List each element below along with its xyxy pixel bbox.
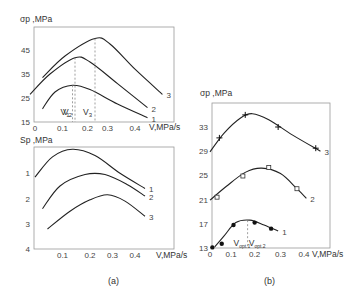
y-tick-label: 3 bbox=[26, 220, 31, 229]
series-label-1: 1 bbox=[282, 228, 287, 237]
annotation-label: V2 bbox=[63, 107, 73, 118]
x-tick-label: 0.2 bbox=[84, 251, 96, 260]
x-tick-label: 0.3 bbox=[107, 251, 119, 260]
data-point-marker bbox=[269, 226, 273, 230]
data-point-marker bbox=[242, 112, 248, 118]
data-point-marker bbox=[220, 242, 224, 246]
series-line-2 bbox=[210, 168, 306, 200]
y-tick-label: 45 bbox=[21, 46, 30, 55]
y-axis-label: σp ,MPa bbox=[20, 14, 52, 24]
y-tick-label: 17 bbox=[199, 220, 208, 229]
x-tick-label: 0.2 bbox=[249, 250, 261, 259]
series-line-3 bbox=[210, 114, 320, 152]
series-line-1 bbox=[43, 85, 148, 117]
y-axis-label: Sp ,MPa bbox=[20, 135, 53, 145]
series-label-2: 2 bbox=[152, 105, 157, 114]
x-tick-label: 0.2 bbox=[82, 124, 94, 133]
data-point-marker bbox=[252, 220, 256, 224]
y-tick-label: 4 bbox=[26, 245, 31, 254]
y-tick-label: 2 bbox=[26, 195, 31, 204]
y-tick-label: 35 bbox=[21, 70, 30, 79]
series-line-2 bbox=[43, 173, 146, 209]
annotation-label: Vopt.2 bbox=[249, 238, 266, 249]
data-point-marker bbox=[215, 195, 219, 199]
data-point-marker bbox=[210, 245, 214, 249]
plot-frame bbox=[212, 103, 330, 248]
series-label-3: 3 bbox=[149, 213, 154, 222]
series-label-1: 1 bbox=[152, 115, 157, 124]
x-tick-label: 0.1 bbox=[57, 124, 69, 133]
x-tick-label: 0.4 bbox=[129, 124, 141, 133]
y-tick-label: 29 bbox=[199, 147, 208, 156]
x-axis-label: V,MPa/s bbox=[312, 249, 343, 259]
data-point-marker bbox=[241, 174, 245, 178]
y-tick-label: 25 bbox=[199, 171, 208, 180]
series-label-2: 2 bbox=[149, 193, 154, 202]
annotation-subscript: 3 bbox=[89, 112, 93, 118]
y-tick-label: 33 bbox=[199, 123, 208, 132]
caption-b: (b) bbox=[264, 276, 275, 286]
data-point-marker bbox=[295, 187, 299, 191]
annotation-subscript: opt.2 bbox=[254, 243, 265, 249]
x-tick-label: 0.3 bbox=[102, 124, 114, 133]
series-label-3: 3 bbox=[324, 148, 329, 157]
x-tick-label: 0.3 bbox=[275, 250, 287, 259]
data-point-marker bbox=[275, 124, 281, 130]
data-point-marker bbox=[267, 166, 271, 170]
annotation-subscript: 2 bbox=[69, 112, 73, 118]
y-tick-label: 21 bbox=[199, 196, 208, 205]
x-tick-label: 0.1 bbox=[57, 251, 69, 260]
x-tick-label: 0.1 bbox=[226, 250, 238, 259]
caption-a: (a) bbox=[108, 276, 119, 286]
panel-a-top: σp ,MPa V,MPa/s 4535251500.10.20.30.4123… bbox=[20, 14, 180, 133]
x-axis-label: V,MPa/s bbox=[156, 250, 187, 260]
x-tick-label: 0.4 bbox=[298, 250, 310, 259]
annotation-label: V3 bbox=[83, 107, 93, 118]
figure: σp ,MPa V,MPa/s 4535251500.10.20.30.4123… bbox=[0, 0, 363, 297]
panel-a-bottom: Sp ,MPa V,MPa/s 12340.10.20.30.4123 bbox=[20, 135, 187, 260]
panel-b: σp ,MPa V,MPa/s 33292521171300.10.20.30.… bbox=[199, 88, 343, 259]
series-label-3: 3 bbox=[167, 91, 172, 100]
series-label-2: 2 bbox=[310, 195, 315, 204]
data-point-marker bbox=[231, 223, 235, 227]
x-tick-label: 0.4 bbox=[129, 251, 141, 260]
y-tick-label: 1 bbox=[26, 169, 31, 178]
x-tick-label: 0 bbox=[33, 124, 38, 133]
y-tick-label: 15 bbox=[21, 118, 30, 127]
series-line-3 bbox=[48, 195, 146, 229]
series-line-1 bbox=[35, 149, 145, 188]
y-tick-label: 25 bbox=[21, 94, 30, 103]
y-axis-label: σp ,MPa bbox=[200, 88, 232, 98]
x-tick-label: 0 bbox=[208, 250, 213, 259]
